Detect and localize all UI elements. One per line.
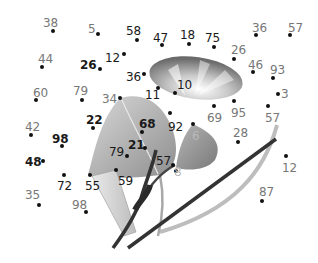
dot-marker[interactable] [98,67,102,71]
dot-marker[interactable] [187,42,191,46]
dot-marker[interactable] [122,52,126,56]
dot-number-label: 12 [282,162,297,174]
dot-number-label: 58 [126,25,141,37]
dot-marker[interactable] [191,122,195,126]
dot-marker[interactable] [41,159,45,163]
dot-number-label: 72 [57,180,72,192]
dot-number-label: 26 [231,44,246,56]
dot-number-label: 55 [85,180,100,192]
dot-marker[interactable] [125,154,129,158]
dot-marker[interactable] [284,154,288,158]
dot-number-label: 68 [139,118,155,130]
dot-number-label: 93 [270,64,285,76]
dot-marker[interactable] [80,98,84,102]
dot-number-label: 36 [252,22,267,34]
dot-marker[interactable] [232,99,236,103]
dot-number-label: 3 [281,88,288,100]
dot-marker[interactable] [62,173,66,177]
dot-number-label: 46 [248,59,263,71]
dot-number-label: 92 [168,121,183,133]
dot-number-label: 12 [105,52,120,64]
dot-number-label: 34 [102,93,117,105]
dot-number-label: 22 [86,114,102,126]
dot-marker[interactable] [212,45,216,49]
dot-number-label: 98 [72,199,87,211]
dot-number-label: 18 [180,29,195,41]
flower-bloom [147,51,246,106]
dot-number-label: 36 [126,71,141,83]
dot-marker[interactable] [88,173,92,177]
dot-number-label: 42 [25,121,40,133]
dot-number-label: 60 [33,87,48,99]
dot-number-label: 57 [288,22,303,34]
dot-number-label: 5 [88,23,95,35]
dot-number-label: 79 [73,85,88,97]
dot-marker[interactable] [114,168,118,172]
dot-marker[interactable] [232,57,236,61]
dot-marker[interactable] [236,140,240,144]
dot-number-label: 28 [233,127,248,139]
dot-marker[interactable] [142,72,146,76]
dot-number-label: 26 [80,59,96,71]
dot-number-label: 87 [259,186,274,198]
dot-number-label: 59 [118,175,133,187]
dot-number-label: 75 [205,32,220,44]
dot-number-label: 35 [25,189,40,201]
dot-number-label: 21 [128,139,144,151]
dot-marker[interactable] [260,199,264,203]
dot-marker[interactable] [118,96,122,100]
dot-marker[interactable] [37,203,41,207]
dot-number-label: 11 [145,89,160,101]
dot-number-label: 8 [174,166,181,178]
dot-number-label: 47 [153,32,168,44]
dot-number-label: 95 [231,107,246,119]
dot-number-label: 38 [43,17,58,29]
dot-number-label: 6 [192,130,199,142]
dot-number-label: 57 [156,155,171,167]
dot-marker[interactable] [135,38,139,42]
dot-marker[interactable] [212,104,216,108]
dot-marker[interactable] [168,111,172,115]
dot-number-label: 48 [25,156,41,168]
dot-number-label: 69 [207,112,222,124]
dot-marker[interactable] [266,104,270,108]
dot-number-label: 79 [109,146,124,158]
dot-marker[interactable] [276,92,280,96]
dot-number-label: 57 [265,112,280,124]
dot-number-label: 10 [177,79,192,91]
dot-marker[interactable] [96,32,100,36]
dot-number-label: 98 [52,133,68,145]
dot-to-dot-puzzle: 3855847187536574426122636469360793411103… [0,0,318,263]
dot-number-label: 44 [38,53,53,65]
